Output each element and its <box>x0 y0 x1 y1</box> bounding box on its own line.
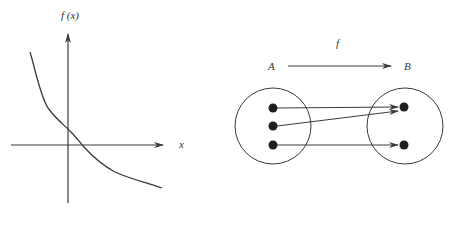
domain-label: A <box>267 60 275 72</box>
function-label: f <box>336 37 341 49</box>
y-axis-label: f (x) <box>61 9 79 22</box>
diagram-canvas: f (x) x f A B <box>0 0 456 232</box>
domain-element-2 <box>269 122 278 131</box>
domain-element-1 <box>269 104 278 113</box>
codomain-element-2 <box>400 141 409 150</box>
codomain-set-circle <box>367 88 443 164</box>
arrow-2-to-1 <box>277 111 398 126</box>
x-axis-label: x <box>178 138 184 150</box>
codomain-element-1 <box>400 103 409 112</box>
set-mapping: f A B <box>235 37 443 164</box>
function-graph: f (x) x <box>11 9 184 203</box>
arrow-1-to-1 <box>277 107 398 108</box>
decreasing-curve <box>30 52 162 188</box>
codomain-label: B <box>404 60 411 72</box>
domain-element-3 <box>269 141 278 150</box>
